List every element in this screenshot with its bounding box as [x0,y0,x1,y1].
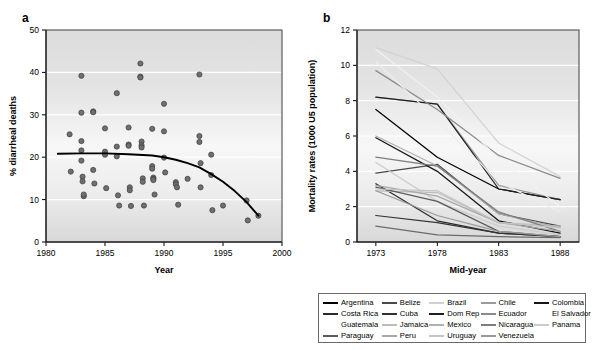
legend-swatch-icon [429,324,444,326]
legend-swatch-icon [481,324,496,326]
legend-item-guatemala: Guatemala [323,319,382,330]
scatter-point [115,193,120,198]
scatter-point [138,75,143,80]
legend-item-mexico: Mexico [429,319,480,330]
panel-b-ytick-label: 12 [341,25,351,35]
legend-item-argentina: Argentina [323,297,382,308]
panel-b-ytick-label: 0 [345,237,350,247]
scatter-point [79,148,84,153]
legend-swatch-icon [323,302,338,304]
scatter-point [91,167,96,172]
legend-column-2: BelizeCubaJamaicaPeru [382,297,429,341]
legend-column-3: BrazilDom RepMexicoUruguay [429,297,480,341]
legend-item-peru: Peru [382,330,429,341]
legend-item-panama: Panama [534,319,581,330]
scatter-point [220,203,225,208]
scatter-point [198,185,203,190]
legend-item-uruguay: Uruguay [429,330,480,341]
legend-swatch-icon [481,335,496,337]
figure-root: a 0102030405019801985199019952000Year% d… [0,0,602,350]
panel-a-plot: 0102030405019801985199019952000Year% dia… [0,18,301,318]
scatter-point [79,158,84,163]
scatter-point [126,125,131,130]
legend-column-5: ColombiaEl SalvadorPanama [534,297,581,341]
legend-label: Ecuador [499,308,527,319]
scatter-point [127,188,132,193]
scatter-point [197,139,202,144]
panel-b-xtick-label: 1973 [366,248,385,258]
legend-label: Guatemala [341,319,378,330]
scatter-point [140,179,145,184]
legend-item-el-salvador: El Salvador [534,308,581,319]
scatter-point [126,143,131,148]
legend-label: Dom Rep [447,308,479,319]
legend-label: Paraguay [341,330,374,341]
scatter-point [198,161,203,166]
legend-item-belize: Belize [382,297,429,308]
legend-swatch-icon [323,313,338,315]
legend-swatch-icon [481,302,496,304]
legend-item-dom-rep: Dom Rep [429,308,480,319]
legend-item-colombia: Colombia [534,297,581,308]
scatter-point [104,186,109,191]
legend-grid: ArgentinaCosta RicaGuatemalaParaguayBeli… [319,294,585,344]
scatter-point [151,178,156,183]
panel-b-x-axis-title: Mid-year [449,265,487,275]
legend-label: Venezuela [499,330,534,341]
legend-label: Panama [552,319,580,330]
panel-b-xtick-label: 1988 [551,248,570,258]
legend-swatch-icon [481,313,496,315]
legend-label: Chile [499,297,516,308]
scatter-point [92,181,97,186]
legend-label: Colombia [552,297,584,308]
legend-label: Nicaragua [499,319,534,330]
panel-b-ytick-label: 2 [345,202,350,212]
scatter-point [79,73,84,78]
panel-a-ytick-label: 50 [30,25,40,35]
scatter-point [79,138,84,143]
scatter-point [128,203,133,208]
scatter-point [138,61,143,66]
panel-a-x-axis-title: Year [154,265,174,275]
scatter-point [68,169,73,174]
scatter-point [67,132,72,137]
panel-a: a 0102030405019801985199019952000Year% d… [0,0,301,350]
panel-b-ytick-label: 10 [341,60,351,70]
scatter-point [141,203,146,208]
scatter-point [176,202,181,207]
legend-column-1: ArgentinaCosta RicaGuatemalaParaguay [323,297,382,341]
legend-item-brazil: Brazil [429,297,480,308]
panel-a-y-axis-title: % diarrheal deaths [8,96,18,176]
legend-label: El Salvador [552,308,591,319]
panel-a-xtick-label: 1990 [155,248,174,258]
scatter-point [114,91,119,96]
scatter-point [185,176,190,181]
legend-label: Cuba [400,308,418,319]
legend-column-4: ChileEcuadorNicaraguaVenezuela [481,297,534,341]
scatter-point [91,110,96,115]
legend-swatch-icon [429,335,444,337]
panel-b-ytick-label: 8 [345,96,350,106]
scatter-point [139,145,144,150]
scatter-point [161,101,166,106]
panel-a-xtick-label: 1995 [214,248,233,258]
legend-swatch-icon [429,302,444,304]
legend-item-nicaragua: Nicaragua [481,319,534,330]
panel-b-ytick-label: 4 [345,166,350,176]
panel-a-xtick-label: 2000 [273,248,292,258]
legend-label: Jamaica [400,319,428,330]
scatter-point [197,72,202,77]
legend-item-ecuador: Ecuador [481,308,534,319]
legend-label: Brazil [447,297,466,308]
scatter-point [79,110,84,115]
scatter-point [161,129,166,134]
legend-label: Argentina [341,297,374,308]
legend-swatch-icon [534,324,549,326]
legend-swatch-icon [382,335,397,337]
scatter-point [174,185,179,190]
scatter-point [102,126,107,131]
legend-label: Belize [400,297,421,308]
panel-b-xtick-label: 1983 [489,248,508,258]
legend-item-cuba: Cuba [382,308,429,319]
legend-swatch-icon [534,313,549,315]
